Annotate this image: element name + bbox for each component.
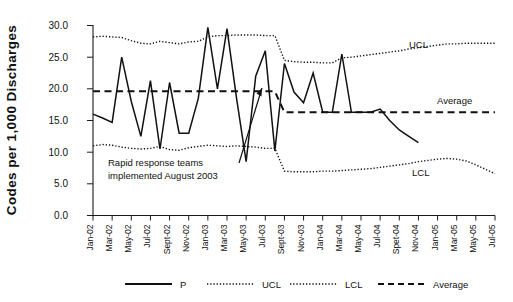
chart-legend: P UCL LCL Average xyxy=(125,279,468,290)
x-tick-label: Jul-02 xyxy=(142,224,152,247)
ucl-label: UCL xyxy=(409,39,428,50)
y-tick-label: 30.0 xyxy=(49,20,69,31)
legend-label-p: P xyxy=(180,279,186,290)
x-tick-label: Spet-04 xyxy=(391,224,401,254)
annotation-leader-line xyxy=(239,88,262,163)
x-axis-tick-labels: Jan-02Mar-02May-02Jul-02Sept-02Nov-02Jan… xyxy=(85,224,497,254)
x-tick-label: Jan-03 xyxy=(200,224,210,250)
x-axis-ticks xyxy=(93,216,495,221)
x-tick-label: May-04 xyxy=(353,224,363,253)
x-tick-label: Mar-02 xyxy=(104,224,114,251)
x-tick-label: Jan-05 xyxy=(430,224,440,250)
y-tick-label: 20.0 xyxy=(49,83,69,94)
x-tick-label: Mar-04 xyxy=(334,224,344,251)
spc-chart: Codes per 1,000 Discharges 0.0 5.0 10.0 … xyxy=(0,0,513,302)
series-line-ucl xyxy=(93,35,495,63)
legend-label-average: Average xyxy=(433,279,468,290)
series-line-p xyxy=(93,27,418,161)
y-axis-tick-labels: 0.0 5.0 10.0 15.0 20.0 25.0 30.0 xyxy=(49,20,69,221)
annotation-line-1: Rapid response teams xyxy=(108,157,203,168)
x-tick-label: May-03 xyxy=(238,224,248,253)
chart-canvas: Codes per 1,000 Discharges 0.0 5.0 10.0 … xyxy=(0,0,513,302)
x-tick-label: Nov-04 xyxy=(410,224,420,252)
x-tick-label: May-05 xyxy=(468,224,478,253)
y-tick-label: 0.0 xyxy=(54,210,68,221)
average-label: Average xyxy=(437,95,472,106)
y-axis-title: Codes per 1,000 Discharges xyxy=(4,25,19,216)
x-tick-label: Jan-04 xyxy=(315,224,325,250)
x-tick-label: Mar-03 xyxy=(219,224,229,251)
x-tick-label: Sept-03 xyxy=(276,224,286,254)
x-tick-label: Nov-03 xyxy=(296,224,306,252)
x-tick-label: Jul-05 xyxy=(487,224,497,247)
annotation-line-2: implemented August 2003 xyxy=(108,170,218,181)
y-tick-label: 25.0 xyxy=(49,52,69,63)
x-tick-label: Jul-03 xyxy=(257,224,267,247)
lcl-label: LCL xyxy=(412,167,429,178)
legend-label-lcl: LCL xyxy=(345,279,362,290)
y-tick-label: 15.0 xyxy=(49,115,69,126)
x-tick-label: Nov-02 xyxy=(181,224,191,252)
x-tick-label: Sept-02 xyxy=(162,224,172,254)
legend-label-ucl: UCL xyxy=(262,279,281,290)
y-tick-label: 5.0 xyxy=(54,178,68,189)
x-tick-label: Mar-05 xyxy=(449,224,459,251)
x-tick-label: Jan-02 xyxy=(85,224,95,250)
x-tick-label: May-02 xyxy=(123,224,133,253)
x-tick-label: Jul-04 xyxy=(372,224,382,247)
y-tick-label: 10.0 xyxy=(49,147,69,158)
y-axis-ticks xyxy=(87,26,93,216)
